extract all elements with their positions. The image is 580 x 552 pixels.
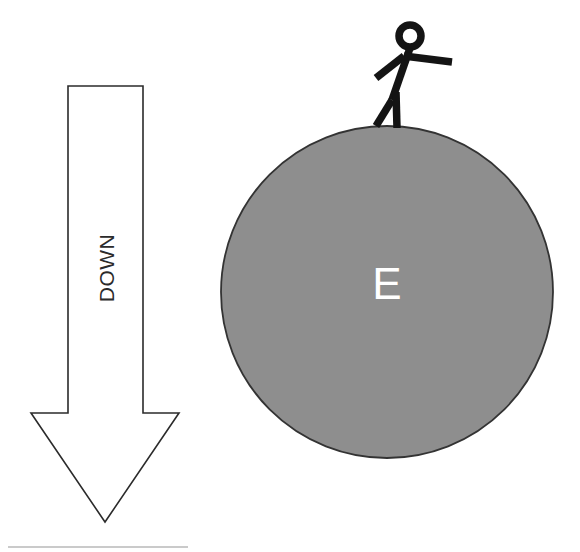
stick-figure-group [376,25,452,128]
diagram-vector-layer [0,0,580,552]
stick-figure-arm-right [404,56,452,62]
stick-figure-leg-left [376,100,392,126]
down-arrow-shape [31,86,179,522]
diagram-canvas: DOWN E [0,0,580,552]
stick-figure-head-icon [399,25,421,47]
stick-figure-leg-right [396,92,397,128]
down-arrow-label: DOWN [96,234,117,303]
earth-label: E [372,262,401,306]
